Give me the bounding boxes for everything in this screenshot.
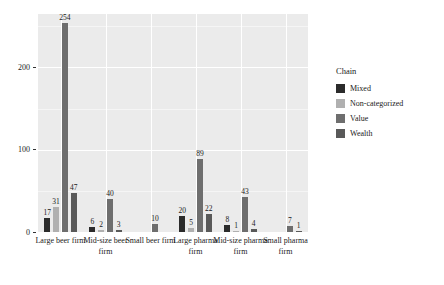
y-axis-tick: 200 xyxy=(18,62,38,72)
legend-swatch xyxy=(336,99,345,108)
legend: Chain MixedNon-categorizedValueWealth xyxy=(336,66,440,141)
bar-value-label: 89 xyxy=(180,149,220,158)
legend-swatch xyxy=(336,114,345,123)
bar-slot[interactable]: 8 xyxy=(224,14,230,232)
legend-item-label: Mixed xyxy=(350,84,371,94)
bar-slot[interactable] xyxy=(278,14,284,232)
bar-slot[interactable]: 43 xyxy=(242,14,248,232)
bar-slot[interactable] xyxy=(161,14,167,232)
y-axis-tick-label: 100 xyxy=(18,145,30,154)
x-axis-tick-label: Small pharma firm xyxy=(257,236,314,257)
y-axis-tick-mark xyxy=(33,67,36,68)
y-axis-tick: 100 xyxy=(18,145,38,155)
bar[interactable] xyxy=(233,231,239,232)
bar[interactable] xyxy=(116,230,122,232)
bar[interactable] xyxy=(296,231,302,232)
bar-group: 173125447 xyxy=(38,14,83,232)
bar-group: 71 xyxy=(263,14,308,232)
plot-panel: 173125447624031020589228143471 xyxy=(38,14,308,232)
y-axis: 0100200 xyxy=(0,14,38,232)
legend-item-label: Value xyxy=(350,114,368,124)
bar-slot[interactable]: 1 xyxy=(296,14,302,232)
bar-slot[interactable]: 4 xyxy=(251,14,257,232)
legend-item[interactable]: Non-categorized xyxy=(336,96,440,111)
bar-value-label: 254 xyxy=(45,13,85,22)
legend-item[interactable]: Mixed xyxy=(336,81,440,96)
bar[interactable] xyxy=(62,23,68,232)
legend-swatch xyxy=(336,129,345,138)
bar-slot[interactable] xyxy=(134,14,140,232)
bar-slot[interactable]: 5 xyxy=(188,14,194,232)
bar[interactable] xyxy=(251,229,257,232)
bar-value-label: 10 xyxy=(135,214,175,223)
bar-slot[interactable]: 47 xyxy=(71,14,77,232)
bar[interactable] xyxy=(53,207,59,233)
y-axis-tick-label: 0 xyxy=(26,228,30,237)
bar-slot[interactable]: 10 xyxy=(152,14,158,232)
bar-group: 10 xyxy=(128,14,173,232)
bar-slot[interactable]: 20 xyxy=(179,14,185,232)
legend-item[interactable]: Value xyxy=(336,111,440,126)
legend-item-label: Wealth xyxy=(350,129,372,139)
legend-item-label: Non-categorized xyxy=(350,99,403,109)
bar[interactable] xyxy=(188,228,194,232)
bar-slot[interactable]: 1 xyxy=(233,14,239,232)
bar-group: 62403 xyxy=(83,14,128,232)
legend-items: MixedNon-categorizedValueWealth xyxy=(336,81,440,141)
bar-slot[interactable]: 7 xyxy=(287,14,293,232)
bar[interactable] xyxy=(197,159,203,232)
legend-swatch xyxy=(336,84,345,93)
bar-slot[interactable]: 22 xyxy=(206,14,212,232)
bar-value-label: 43 xyxy=(225,187,265,196)
bar-slot[interactable]: 254 xyxy=(62,14,68,232)
bar-series-layer: 173125447624031020589228143471 xyxy=(38,14,308,232)
bar[interactable] xyxy=(98,230,104,232)
legend-title: Chain xyxy=(336,66,440,77)
y-axis-tick-mark xyxy=(33,149,36,150)
bar-group: 2058922 xyxy=(173,14,218,232)
bar-group: 81434 xyxy=(218,14,263,232)
bar[interactable] xyxy=(71,193,77,232)
bar-slot[interactable]: 89 xyxy=(197,14,203,232)
bar-slot[interactable]: 3 xyxy=(116,14,122,232)
bar-slot[interactable] xyxy=(143,14,149,232)
bar-slot[interactable]: 31 xyxy=(53,14,59,232)
x-axis: Large beer firmMid-size beer firmSmall b… xyxy=(38,233,308,278)
y-axis-tick-label: 200 xyxy=(18,63,30,72)
chart-figure: 0100200 173125447624031020589228143471 L… xyxy=(0,0,444,285)
bar-slot[interactable]: 6 xyxy=(89,14,95,232)
bar-slot[interactable]: 40 xyxy=(107,14,113,232)
y-axis-tick-mark xyxy=(33,232,36,233)
bar[interactable] xyxy=(152,224,158,232)
bar-slot[interactable]: 2 xyxy=(98,14,104,232)
bar-value-label: 1 xyxy=(279,221,319,230)
bar[interactable] xyxy=(44,218,50,232)
bar-slot[interactable] xyxy=(269,14,275,232)
legend-item[interactable]: Wealth xyxy=(336,126,440,141)
bar-value-label: 40 xyxy=(90,189,130,198)
